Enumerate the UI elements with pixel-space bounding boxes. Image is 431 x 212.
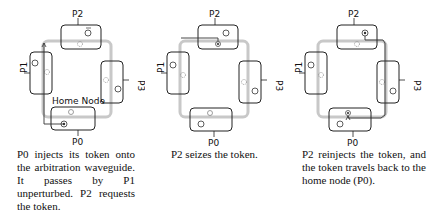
injector-ring-icon [242,80,247,85]
receiver-ring-icon [85,30,91,36]
node-label-p0: P0 [347,138,358,148]
node-label-p0: P0 [72,137,83,147]
node-label-p3: P3 [274,80,284,91]
caption-step-2: P2 seizes the token. [171,148,281,161]
home-node-label: Home Node [52,96,105,106]
panel-step-3: P2 P1 P3 P0 P2 reinjects the token, and … [285,0,431,212]
node-label-p2: P2 [209,9,220,19]
panel-step-1: P2 P1 P3 P0 Home Node P0 injects its tok… [0,0,145,212]
ring-diagram-3: P2 P1 P3 P0 [285,0,431,148]
token-path [44,43,64,124]
node-box-p0 [190,108,232,131]
node-label-p3: P3 [412,80,422,91]
injector-ring-icon [208,111,213,116]
node-box-p3 [377,61,399,103]
node-label-p0: P0 [208,138,219,148]
node-label-p2: P2 [72,9,83,19]
token-dot-icon [364,32,366,34]
receiver-ring-icon [32,60,38,66]
panel-step-2: P2 P1 P3 P0 P2 seizes the token. [145,0,285,212]
waveguide-loop [318,41,386,117]
node-label-p1: P1 [156,62,166,73]
waveguide-loop [180,41,248,117]
receiver-ring-icon [223,30,229,36]
injector-ring-icon [380,80,385,85]
receiver-ring-icon [198,121,204,127]
node-box-p2 [198,25,238,49]
node-label-p1: P1 [294,62,304,73]
ring-diagram-1: P2 P1 P3 P0 Home Node [0,0,145,148]
receiver-ring-icon [337,121,343,127]
receiver-ring-icon [308,62,314,68]
node-box-p1 [30,52,52,94]
node-box-p1 [305,52,327,94]
receiver-ring-icon [115,86,121,92]
token-path [348,36,385,118]
receiver-ring-icon [170,62,176,68]
node-box-p3 [239,61,261,103]
node-label-p2: P2 [348,9,359,19]
ring-diagram-2: P2 P1 P3 P0 [145,0,285,148]
injector-ring-icon [45,70,50,75]
node-box-p2 [337,25,377,49]
token-dot-icon [347,112,349,114]
node-box-p2 [61,25,101,49]
token-dot-icon [217,43,219,45]
receiver-ring-icon [390,88,396,94]
node-label-p3: P3 [136,80,145,91]
injector-ring-icon [104,78,109,83]
caption-step-1: P0 injects its token onto the arbitratio… [17,148,135,212]
node-box-p1 [167,52,189,94]
node-label-p1: P1 [19,62,29,73]
caption-step-3: P2 reinjects the token, and the token tr… [302,148,426,187]
receiver-ring-icon [252,88,258,94]
injector-ring-icon [69,110,74,115]
